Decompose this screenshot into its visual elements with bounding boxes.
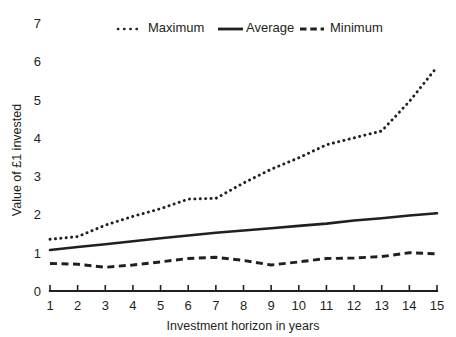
x-tick-label-4: 4 (129, 298, 136, 313)
x-tick-label-8: 8 (240, 298, 247, 313)
y-tick-label-5: 5 (34, 93, 41, 108)
y-tick-label-2: 2 (34, 207, 41, 222)
series-line-minimum (50, 253, 437, 268)
y-axis-title: Value of £1 invested (10, 104, 24, 216)
legend-label-average: Average (246, 20, 294, 35)
chart-legend: Maximum Average Minimum (118, 20, 383, 35)
legend-label-maximum: Maximum (148, 20, 204, 35)
x-tick-label-9: 9 (268, 298, 275, 313)
x-tick-label-2: 2 (74, 298, 81, 313)
x-tick-label-5: 5 (157, 298, 164, 313)
series-line-maximum (50, 67, 437, 239)
chart-container: 01234567 123456789101112131415 Investmen… (0, 0, 456, 337)
x-tick-label-11: 11 (320, 298, 334, 313)
y-axis-tick-labels: 01234567 (34, 16, 41, 299)
y-tick-label-1: 1 (34, 246, 41, 261)
y-tick-label-3: 3 (34, 169, 41, 184)
legend-label-minimum: Minimum (330, 20, 383, 35)
y-tick-label-7: 7 (34, 16, 41, 31)
series-line-average (50, 213, 437, 250)
y-tick-label-4: 4 (34, 131, 41, 146)
x-tick-label-6: 6 (185, 298, 192, 313)
y-tick-label-0: 0 (34, 284, 41, 299)
x-tick-label-1: 1 (46, 298, 53, 313)
x-tick-label-12: 12 (347, 298, 361, 313)
x-tick-label-3: 3 (102, 298, 109, 313)
x-tick-label-7: 7 (212, 298, 219, 313)
x-axis-tick-labels: 123456789101112131415 (46, 298, 444, 313)
x-tick-label-13: 13 (374, 298, 388, 313)
line-chart: 01234567 123456789101112131415 Investmen… (0, 0, 456, 337)
y-tick-label-6: 6 (34, 54, 41, 69)
x-tick-label-14: 14 (402, 298, 416, 313)
x-tick-label-15: 15 (430, 298, 444, 313)
x-axis-title: Investment horizon in years (167, 319, 320, 333)
x-tick-label-10: 10 (292, 298, 306, 313)
